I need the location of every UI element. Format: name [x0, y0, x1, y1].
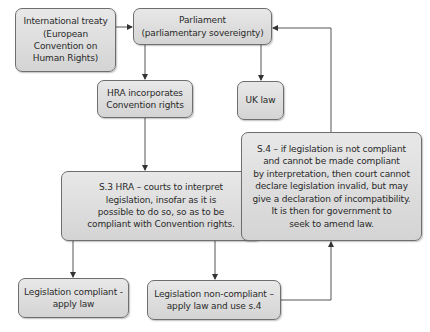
- flowchart-canvas: International treaty (European Conventio…: [0, 0, 430, 332]
- node-hra-incorporates: HRA incorporates Convention rights: [97, 80, 193, 118]
- node-international-treaty-label: International treaty (European Conventio…: [23, 15, 107, 65]
- node-legislation-compliant: Legislation compliant - apply law: [18, 278, 129, 318]
- node-uk-law-label: UK law: [246, 94, 276, 106]
- node-uk-law: UK law: [237, 81, 284, 120]
- node-s3-hra-label: S.3 HRA – courts to interpret legislatio…: [87, 181, 234, 231]
- node-legislation-compliant-label: Legislation compliant - apply law: [24, 286, 123, 311]
- node-parliament: Parliament (parliamentary sovereignty): [133, 8, 272, 45]
- node-parliament-label: Parliament (parliamentary sovereignty): [141, 14, 263, 39]
- node-international-treaty: International treaty (European Conventio…: [15, 8, 116, 72]
- node-s4: S.4 – if legislation is not compliant an…: [241, 132, 422, 241]
- node-hra-incorporates-label: HRA incorporates Convention rights: [106, 87, 183, 112]
- node-legislation-non-compliant: Legislation non-compliant – apply law an…: [147, 280, 281, 320]
- node-s3-hra: S.3 HRA – courts to interpret legislatio…: [61, 171, 261, 241]
- edge-noncompliant-s4: [281, 242, 331, 300]
- node-legislation-non-compliant-label: Legislation non-compliant – apply law an…: [154, 288, 274, 313]
- node-s4-label: S.4 – if legislation is not compliant an…: [252, 143, 410, 230]
